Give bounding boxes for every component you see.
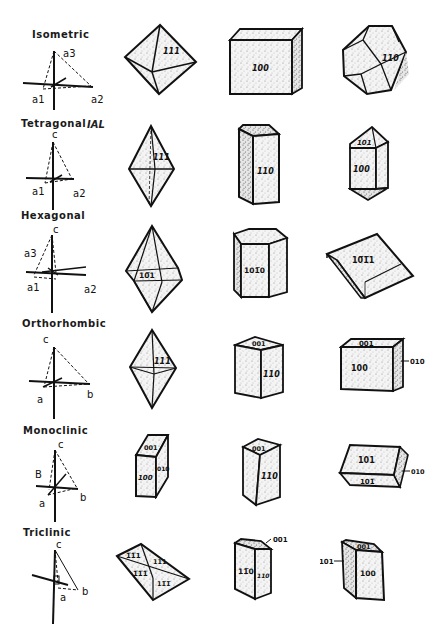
system-label-tetragonal: Tetragonal	[21, 118, 86, 129]
face-label: 110	[257, 167, 274, 176]
face-label: 10̅1̅1	[352, 256, 375, 265]
crystal-tetragonal-dipyramid: 111	[127, 124, 177, 208]
axis-label-a1: a1	[32, 186, 45, 197]
axis-label-b: b	[80, 492, 86, 503]
axis-label-a: a	[60, 592, 66, 603]
axis-label-a1: a1	[27, 282, 40, 293]
crystal-orthorhombic-prism: 001 110	[233, 336, 289, 400]
axis-label-b: b	[87, 389, 93, 400]
system-label-isometric: Isometric	[32, 29, 89, 40]
face-label: 110	[263, 370, 280, 379]
axis-label-c: c	[56, 540, 62, 550]
crystal-octahedron: 111	[122, 22, 202, 97]
axial-cross-orthorhombic: c a b	[25, 335, 110, 419]
axis-label-a1: a1	[32, 94, 45, 105]
crystal-monoclinic-prism: 001 110	[240, 437, 284, 507]
axis-label-a2: a2	[73, 188, 86, 199]
face-label: 100	[360, 569, 376, 578]
face-label: 100	[252, 64, 269, 73]
system-label-monoclinic: Monoclinic	[23, 425, 88, 436]
axis-label-c: c	[43, 335, 49, 345]
face-label: 111	[153, 153, 170, 162]
face-label: 001	[357, 543, 371, 551]
crystal-monoclinic-prism-2: 101 101̅ 010	[338, 443, 437, 491]
crystal-orthorhombic-dipyramid: 111	[128, 328, 178, 410]
face-label: 100	[353, 165, 370, 174]
axis-label-a: a	[37, 394, 43, 405]
face-label: 11̅0	[238, 567, 254, 576]
axial-cross-triclinic: c a b	[28, 540, 98, 624]
face-label: 111	[153, 558, 167, 566]
crystal-dodecahedron: 110	[339, 24, 419, 96]
axis-label-c: c	[52, 130, 58, 140]
face-label: 101̅	[360, 478, 375, 486]
face-label: 001	[252, 445, 266, 453]
face-label: 1̅1̅1̅	[133, 570, 148, 578]
system-label-hexagonal: Hexagonal	[21, 210, 85, 221]
crystal-triclinic-pinacoids-2: 001 101 100	[320, 538, 420, 604]
axis-label-beta: B	[35, 469, 42, 480]
axis-label-a2: a2	[91, 94, 104, 105]
face-label: 010	[157, 465, 170, 472]
axis-label-a: a	[39, 498, 45, 509]
axis-label-a2: a2	[84, 284, 97, 295]
face-label: 100	[138, 474, 153, 482]
axial-cross-monoclinic: c B a b	[30, 440, 110, 522]
face-label: 001	[252, 340, 266, 348]
face-label: 010	[411, 468, 425, 476]
face-label: 10̅1	[139, 271, 155, 280]
axis-label-b: b	[82, 586, 88, 597]
face-label: 111	[163, 47, 180, 56]
crystal-tetragonal-prism: 110	[237, 124, 287, 208]
crystal-tetragonal-prism-dipyramid: 101 100	[348, 126, 396, 202]
face-label: 101	[357, 139, 372, 147]
system-label-triclinic: Triclinic	[23, 527, 71, 538]
axis-label-c: c	[53, 225, 59, 235]
crystal-orthorhombic-pinacoids: 001 100 010	[339, 337, 437, 393]
crystal-hexagonal-prism: 101̅0	[231, 228, 291, 300]
face-label: 110	[261, 472, 278, 481]
axis-label-a3: a3	[24, 248, 37, 259]
face-label: 001	[273, 537, 288, 544]
axial-cross-tetragonal: c a1 a2	[20, 130, 110, 210]
axial-cross-hexagonal: c a3 a1 a2	[14, 225, 104, 313]
axis-label-c: c	[58, 440, 64, 450]
axial-cross-isometric: a3 a1 a2	[15, 45, 110, 110]
face-label: 101	[358, 456, 375, 465]
face-label: 111	[154, 357, 171, 366]
handwritten-annotation: IAL	[87, 119, 105, 130]
face-label: 110	[257, 572, 270, 579]
crystal-monoclinic-pinacoids: 001 100 010	[134, 433, 176, 499]
face-label: 11̅1̅	[157, 580, 171, 588]
face-label: 010	[410, 358, 425, 366]
face-label: 1̅1̅1	[126, 552, 141, 560]
crystal-triclinic-pinacoid: 1̅1̅1 111 1̅1̅1̅ 11̅1̅	[113, 542, 191, 602]
crystal-cube: 100	[228, 26, 308, 96]
axis-label-a3: a3	[63, 48, 76, 59]
system-label-orthorhombic: Orthorhombic	[22, 318, 106, 329]
face-label: 100	[351, 364, 368, 373]
crystal-rhombohedron: 10̅1̅1	[325, 232, 425, 300]
face-label: 001	[144, 444, 158, 452]
face-label: 001	[359, 340, 374, 348]
face-label: 101	[320, 558, 334, 566]
crystal-triclinic-prism: 001 11̅0 110	[233, 537, 293, 601]
face-label: 101̅0	[244, 266, 265, 275]
crystal-hexagonal-dipyramid: 10̅1	[124, 224, 186, 314]
face-label: 110	[382, 54, 399, 63]
